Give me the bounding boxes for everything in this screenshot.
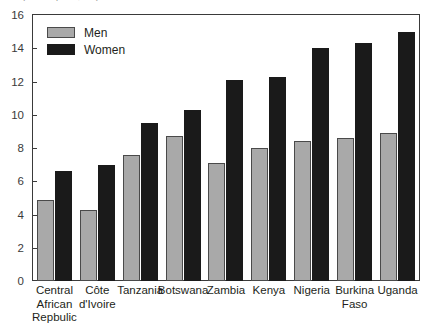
bar-women — [184, 110, 201, 281]
bar-women — [269, 77, 286, 281]
y-tick-label: 2 — [18, 242, 24, 254]
chart-legend: Men Women — [47, 24, 125, 58]
bar-men — [380, 133, 397, 281]
bar-group — [333, 15, 376, 281]
y-tick-label: 0 — [18, 275, 24, 287]
bar-group — [376, 15, 419, 281]
bar-group — [247, 15, 290, 281]
legend-item-women: Women — [47, 41, 125, 58]
y-tick-label: 4 — [18, 209, 24, 221]
y-tick-label: 12 — [11, 76, 24, 88]
bar-chart: 0246810121416 Men Women CentralAfricanRe… — [0, 0, 431, 324]
y-tick-label: 14 — [11, 42, 24, 54]
bar-women — [355, 43, 372, 281]
bar-women — [312, 48, 329, 281]
bar-women — [226, 80, 243, 281]
bar-group — [290, 15, 333, 281]
bar-men — [337, 138, 354, 281]
bar-group — [205, 15, 248, 281]
y-tick-label: 10 — [11, 109, 24, 121]
bar-group — [162, 15, 205, 281]
bar-group — [119, 15, 162, 281]
legend-swatch-men-icon — [47, 27, 75, 38]
bar-men — [251, 148, 268, 281]
legend-swatch-women-icon — [47, 44, 75, 55]
bar-women — [98, 165, 115, 281]
bar-women — [398, 32, 415, 281]
y-axis: 0246810121416 — [0, 0, 32, 324]
bar-men — [166, 136, 183, 281]
bar-men — [37, 200, 54, 281]
legend-label-men: Men — [84, 26, 107, 40]
legend-item-men: Men — [47, 24, 125, 41]
bar-men — [208, 163, 225, 281]
x-axis: CentralAfricanRepbulicCôted'IvoireTanzan… — [33, 284, 419, 324]
y-tick-label: 6 — [18, 175, 24, 187]
y-tick-label: 8 — [18, 142, 24, 154]
bar-men — [294, 141, 311, 281]
bar-men — [80, 210, 97, 281]
bar-women — [141, 123, 158, 281]
legend-label-women: Women — [84, 43, 125, 57]
x-axis-label: Uganda — [370, 284, 425, 298]
y-tick-label: 16 — [11, 9, 24, 21]
bar-men — [123, 155, 140, 281]
bar-women — [55, 171, 72, 281]
